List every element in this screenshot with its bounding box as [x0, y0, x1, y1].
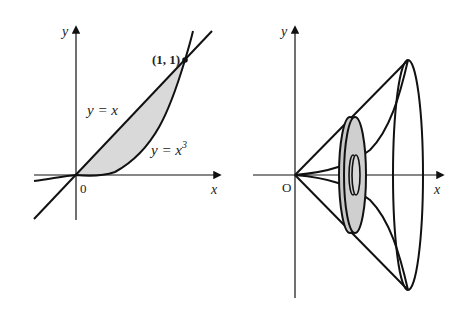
intersection-point: [182, 57, 188, 63]
origin-label: O: [282, 180, 291, 195]
y-axis-label: y: [60, 24, 69, 39]
left-panel: (1, 1) y = x y = x3 0 x y: [34, 24, 220, 220]
figure: (1, 1) y = x y = x3 0 x y O x y: [0, 0, 462, 316]
x-axis-label: x: [210, 182, 218, 197]
y-axis-label: y: [279, 24, 288, 39]
intersection-label: (1, 1): [152, 52, 180, 67]
x-axis-label: x: [433, 182, 441, 197]
cubic-label: y = x3: [149, 139, 187, 158]
washer-cross-section: [339, 117, 366, 233]
origin-label: 0: [80, 181, 87, 196]
line-label: y = x: [85, 102, 118, 118]
right-panel: O x y: [253, 24, 443, 298]
